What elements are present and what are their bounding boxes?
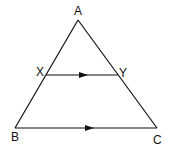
segment-ac [78, 20, 157, 128]
triangle-diagram [0, 0, 170, 148]
label-y: Y [119, 67, 127, 79]
label-x: X [36, 66, 44, 78]
label-c: C [153, 134, 162, 146]
segment-ab [15, 20, 78, 128]
parallel-arrow-xy-icon [79, 72, 88, 78]
parallel-arrow-bc-icon [85, 125, 94, 131]
label-b: B [11, 131, 19, 143]
label-a: A [74, 5, 82, 17]
